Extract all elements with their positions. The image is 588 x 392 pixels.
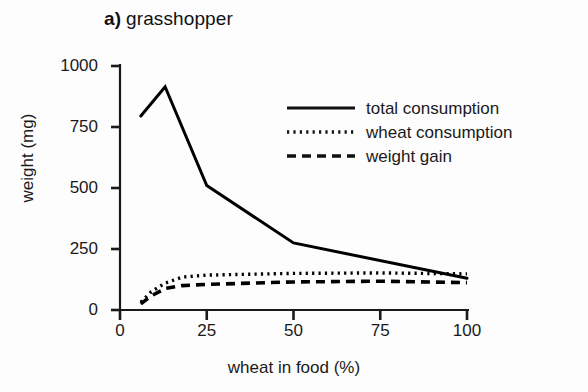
series-line — [141, 281, 467, 304]
legend-item: weight gain — [286, 144, 576, 168]
legend-label: total consumption — [366, 100, 499, 117]
figure-panel-grasshopper: a)grasshopper weight (mg) wheat in food … — [0, 0, 588, 392]
legend-line-sample-dashed — [286, 149, 356, 163]
legend-label: weight gain — [366, 148, 452, 165]
legend: total consumptionwheat consumptionweight… — [286, 96, 576, 168]
legend-item: total consumption — [286, 96, 576, 120]
legend-line-sample-solid — [286, 101, 356, 115]
legend-label: wheat consumption — [366, 124, 512, 141]
series-line — [141, 273, 467, 302]
legend-item: wheat consumption — [286, 120, 576, 144]
plot-area — [0, 0, 588, 392]
legend-line-sample-dotted — [286, 125, 356, 139]
